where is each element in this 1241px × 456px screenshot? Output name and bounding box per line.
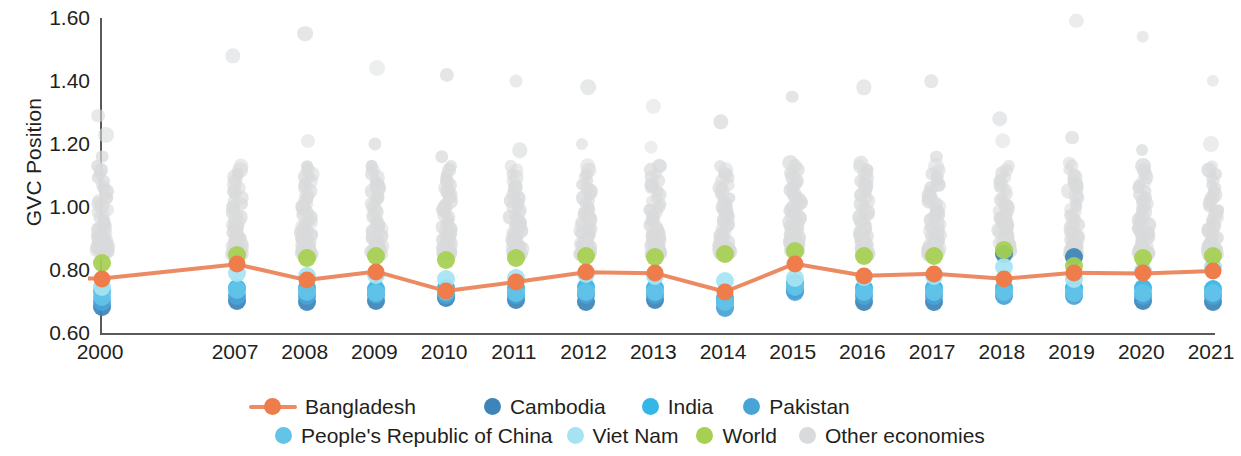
gvc-position-chart: GVC Position 0.600.801.001.201.401.60 20…: [0, 0, 1241, 456]
x-tick-label: 2011: [491, 340, 536, 364]
bangladesh-marker: [298, 272, 315, 289]
bangladesh-marker: [647, 265, 664, 282]
x-tick-label: 2018: [978, 340, 1025, 364]
x-tick-label: 2009: [351, 340, 398, 364]
x-tick-label: 2019: [1048, 340, 1095, 364]
y-tick-label: 1.00: [10, 195, 90, 219]
bangladesh-marker: [856, 267, 873, 284]
legend-row-2: People's Republic of ChinaViet NamWorldO…: [0, 421, 1241, 450]
legend-label: Viet Nam: [593, 425, 679, 446]
x-tick-label: 2012: [560, 340, 607, 364]
legend-item[interactable]: Cambodia: [484, 396, 606, 417]
legend-row-1: BangladeshCambodiaIndiaPakistan: [0, 392, 1241, 421]
bangladesh-marker: [926, 265, 943, 282]
bangladesh-marker: [438, 283, 455, 300]
legend-label: Bangladesh: [305, 396, 416, 417]
x-tick-label: 2017: [909, 340, 956, 364]
bangladesh-line: [102, 18, 1215, 333]
bangladesh-marker: [577, 264, 594, 281]
legend-dot-icon: [275, 427, 292, 444]
legend-label: India: [668, 396, 714, 417]
legend-label: World: [722, 425, 776, 446]
bangladesh-marker: [94, 270, 111, 287]
x-axis-ticks: 2000200720082009201020112012201320142015…: [100, 340, 1213, 370]
legend-line-marker-icon: [249, 398, 297, 415]
x-tick-label: 2014: [700, 340, 747, 364]
legend-dot-icon: [484, 398, 501, 415]
legend-label: Cambodia: [510, 396, 606, 417]
legend-dot-icon: [743, 398, 760, 415]
chart-legend: BangladeshCambodiaIndiaPakistan People's…: [0, 392, 1241, 450]
bangladesh-marker: [368, 263, 385, 280]
legend-dot-icon: [642, 398, 659, 415]
x-tick-label: 2015: [769, 340, 816, 364]
bangladesh-marker: [995, 270, 1012, 287]
bangladesh-marker: [1065, 264, 1082, 281]
y-tick-label: 0.80: [10, 258, 90, 282]
legend-item[interactable]: Pakistan: [743, 396, 850, 417]
x-tick-label: 2021: [1188, 340, 1235, 364]
y-axis-ticks: 0.600.801.001.201.401.60: [10, 18, 90, 333]
x-tick-label: 2010: [421, 340, 468, 364]
legend-label: People's Republic of China: [301, 425, 553, 446]
x-tick-label: 2016: [839, 340, 886, 364]
legend-label: Pakistan: [769, 396, 850, 417]
y-tick-label: 1.20: [10, 132, 90, 156]
legend-dot-icon: [567, 427, 584, 444]
legend-dot-icon: [799, 427, 816, 444]
legend-item[interactable]: Other economies: [799, 425, 985, 446]
plot-canvas: [102, 18, 1215, 333]
x-tick-label: 2008: [281, 340, 328, 364]
x-tick-label: 2007: [212, 340, 259, 364]
bangladesh-marker: [229, 256, 246, 273]
bangladesh-marker: [1135, 265, 1152, 282]
y-tick-label: 1.40: [10, 69, 90, 93]
bangladesh-marker: [786, 255, 803, 272]
bangladesh-marker: [507, 273, 524, 290]
x-tick-label: 2013: [630, 340, 677, 364]
legend-dot-icon: [696, 427, 713, 444]
legend-item[interactable]: Bangladesh: [249, 396, 416, 417]
plot-area: [100, 18, 1215, 335]
bangladesh-marker: [1205, 262, 1222, 279]
legend-item[interactable]: People's Republic of China: [275, 425, 553, 446]
legend-item[interactable]: India: [642, 396, 714, 417]
legend-label: Other economies: [825, 425, 985, 446]
legend-item[interactable]: World: [696, 425, 776, 446]
x-tick-label: 2020: [1118, 340, 1165, 364]
legend-item[interactable]: Viet Nam: [567, 425, 679, 446]
x-tick-label: 2000: [77, 340, 124, 364]
y-tick-label: 1.60: [10, 6, 90, 30]
bangladesh-marker: [717, 283, 734, 300]
